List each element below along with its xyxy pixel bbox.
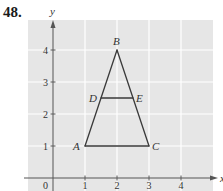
x-axis-label: x [219, 172, 223, 184]
x-tick-label: 2 [115, 180, 120, 191]
y-tick-label: 4 [43, 45, 48, 56]
x-tick-label: 4 [179, 180, 184, 191]
point-label-C: C [152, 140, 160, 152]
point-label-B: B [113, 35, 120, 47]
point-label-E: E [135, 92, 143, 104]
y-axis-label: y [49, 5, 55, 17]
x-axis-arrow-icon [210, 176, 218, 181]
y-tick-label: 3 [43, 77, 48, 88]
coordinate-plane: xy012341234 ABCDE [0, 0, 223, 191]
grid-background [28, 20, 213, 191]
x-tick-label: 3 [147, 180, 152, 191]
x-tick-label: 1 [83, 180, 88, 191]
y-tick-label: 1 [43, 141, 48, 152]
point-label-A: A [72, 140, 80, 152]
point-label-D: D [88, 92, 97, 104]
coordinate-figure: 48. xy012341234 ABCDE [0, 0, 223, 191]
y-tick-label: 2 [43, 109, 48, 120]
origin-label: 0 [43, 180, 48, 191]
